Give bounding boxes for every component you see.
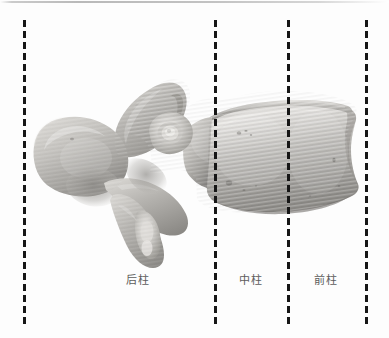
column-label-anterior: 前柱 (314, 274, 338, 288)
divider-line-3 (287, 20, 290, 324)
divider-line-1 (23, 20, 26, 324)
anatomy-figure: 后柱 中柱 前柱 脊柱三柱结构示意图（腰椎侧面观） (0, 0, 389, 338)
divider-line-4 (365, 20, 368, 324)
column-label-posterior: 后柱 (126, 274, 150, 288)
divider-line-2 (214, 20, 217, 324)
column-label-middle: 中柱 (239, 274, 263, 288)
